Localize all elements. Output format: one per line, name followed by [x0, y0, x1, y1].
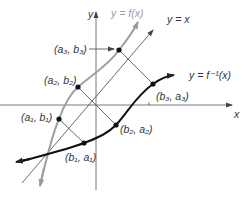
point-a1-b1 — [56, 116, 61, 121]
point-b2-a2 — [113, 122, 118, 127]
x-axis — [0, 102, 232, 105]
f-curve-label: y = f(x) — [110, 7, 143, 19]
point-b1-a1 — [81, 140, 86, 145]
label-b1-a1: (b₁, a₁) — [65, 151, 96, 163]
label-a2-b2: (a₂, b₂) — [44, 74, 77, 86]
point-a3-b3 — [116, 47, 121, 52]
point-b3-a3 — [150, 81, 155, 86]
label-a1-b1: (a₁, b₁) — [21, 111, 52, 123]
label-a3-b3: (a₃, b₃) — [54, 43, 87, 55]
x-axis-label: x — [233, 108, 240, 120]
inverse-function-diagram: y x y = f(x) y = x y = f⁻¹(x) (a₃, b₃) (… — [0, 0, 244, 197]
f-inverse-curve-label: y = f⁻¹(x) — [188, 69, 231, 81]
identity-line-label: y = x — [166, 13, 190, 25]
y-axis-label: y — [87, 8, 94, 20]
label-b2-a2: (b₂, a₂) — [120, 123, 153, 135]
label-b3-a3: (b₃, a₃) — [156, 90, 189, 102]
